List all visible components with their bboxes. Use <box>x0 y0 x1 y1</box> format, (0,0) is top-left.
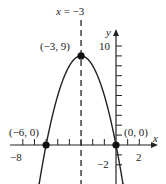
y-tick-label-neg2: −2 <box>97 159 109 170</box>
origin-label: (0, 0) <box>124 127 148 138</box>
x-tick-label-2: 2 <box>136 152 142 163</box>
axis-of-symmetry-x: x <box>56 5 61 17</box>
x-tick-label-neg8: −8 <box>10 152 22 163</box>
axis-of-symmetry-eq: = −3 <box>64 5 85 17</box>
left-intercept-label: (−6, 0) <box>9 127 39 138</box>
vertex-label: (−3, 9) <box>40 41 70 52</box>
data-point <box>112 141 119 148</box>
parabola-graph: x = −3 (−3, 9) (−6, 0) (0, 0) x y −8 2 1… <box>0 0 166 184</box>
curve-left-arrow-icon <box>35 182 41 184</box>
y-axis-label: y <box>106 27 111 38</box>
data-point <box>77 52 84 59</box>
data-point <box>43 141 50 148</box>
x-axis-label: x <box>153 133 158 144</box>
y-tick-label-10: 10 <box>99 41 110 52</box>
axis-of-symmetry-label: x = −3 <box>56 6 84 17</box>
y-axis-arrow-icon <box>113 29 119 36</box>
curve-right-arrow-icon <box>121 182 127 184</box>
